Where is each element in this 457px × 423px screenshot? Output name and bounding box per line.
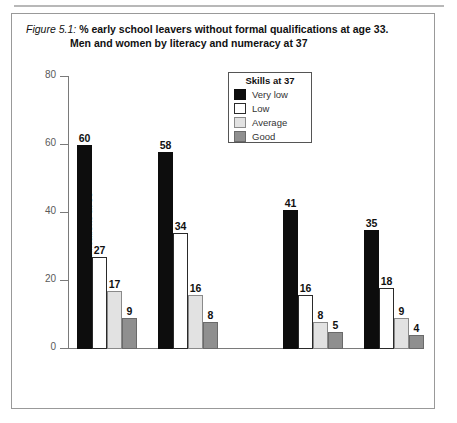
legend-title: Skills at 37 [229,75,311,87]
bar: 18 [379,288,394,349]
bar: 27 [92,257,107,349]
page-divider-rule [14,5,444,7]
y-axis-tick: 40 [60,212,68,213]
bar-value-label: 27 [94,244,106,256]
legend-swatch [234,117,246,128]
bar-value-label: 16 [190,282,202,294]
figure-title-line-2: Men and women by literacy and numeracy a… [26,36,426,50]
legend-swatch [234,103,246,114]
figure-caption: Figure 5.1: % early school leavers witho… [26,22,426,50]
bar-value-label: 18 [381,275,393,287]
bar: 8 [313,322,328,349]
bar-value-label: 8 [318,309,324,321]
y-axis-tick-mark [60,212,68,213]
bar-value-label: 5 [333,319,339,331]
figure-title-line-1: % early school leavers without formal qu… [79,23,388,35]
legend-item-label: Low [252,103,269,114]
bar-value-label: 8 [208,309,214,321]
bar-value-label: 9 [399,305,405,317]
y-axis-tick: 20 [60,280,68,281]
bar: 16 [188,295,203,349]
legend-box: Skills at 37 Very lowLowAverageGood [228,72,312,143]
legend-item-label: Good [252,131,275,142]
y-axis-tick: 0 [60,348,68,349]
bar-value-label: 58 [160,139,172,151]
bar: 41 [283,210,298,349]
legend-rows: Very lowLowAverageGood [229,87,311,143]
bar: 60 [77,145,92,349]
y-axis-tick-label: 0 [50,341,56,352]
y-axis-tick-mark [60,76,68,77]
y-axis-tick: 60 [60,144,68,145]
legend-swatch [234,89,246,100]
bar-value-label: 9 [127,305,133,317]
bar: 58 [158,152,173,349]
bar-value-label: 34 [175,220,187,232]
legend-item-label: Very low [252,89,288,100]
y-axis-tick-label: 60 [45,137,56,148]
bar-value-label: 41 [285,197,297,209]
legend-item: Good [229,129,311,143]
bar: 8 [203,322,218,349]
y-axis-tick: 80 [60,76,68,77]
y-axis-tick-label: 40 [45,205,56,216]
legend-item: Average [229,115,311,129]
bar-value-label: 17 [109,278,121,290]
y-axis-tick-mark [60,348,68,349]
bar: 5 [328,332,343,349]
y-axis-tick-label: 80 [45,69,56,80]
legend-item: Low [229,101,311,115]
bar: 17 [107,291,122,349]
bar-value-label: 4 [414,322,420,334]
y-axis-tick-mark [60,280,68,281]
bar: 35 [364,230,379,349]
bar-value-label: 60 [79,132,91,144]
legend-item: Very low [229,87,311,101]
bar: 4 [409,335,424,349]
legend-swatch [234,131,246,142]
legend-item-label: Average [252,117,287,128]
bar: 9 [394,318,409,349]
figure-number-label: Figure 5.1: [26,23,76,35]
bar-value-label: 16 [300,282,312,294]
bar: 9 [122,318,137,349]
y-axis-tick-mark [60,144,68,145]
bar: 16 [298,295,313,349]
bar-value-label: 35 [366,217,378,229]
y-axis-tick-label: 20 [45,273,56,284]
bar: 34 [173,233,188,349]
